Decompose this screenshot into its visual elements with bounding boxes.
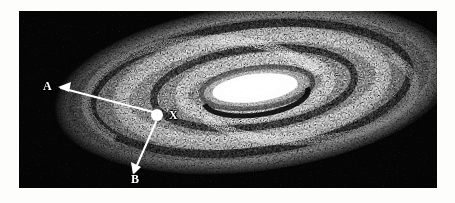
annotation-label-x: X — [169, 109, 178, 121]
annotation-label-b: B — [131, 173, 139, 185]
annotation-label-a: A — [43, 80, 52, 92]
plate-grain-overlay — [19, 11, 437, 188]
engraving-plate: A X B — [19, 11, 437, 188]
figure-root: A X B — [0, 0, 455, 203]
galaxy-illustration — [19, 11, 437, 188]
